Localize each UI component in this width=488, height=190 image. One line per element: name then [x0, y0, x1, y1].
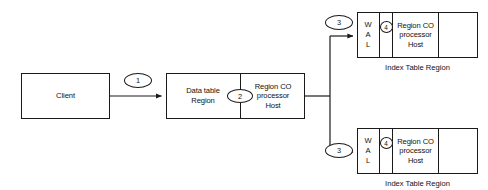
index-region-top-divider-1: [379, 12, 380, 58]
edge-badge-4-top: 4: [380, 21, 393, 33]
wal-letter-w: W: [364, 20, 371, 30]
index-region-bottom-processor-cell: Region CO processor Host: [393, 128, 438, 174]
diagram-canvas: Client 1 Data table Region Region CO pro…: [0, 0, 488, 190]
wal-letter-a: A: [365, 146, 370, 156]
index-region-top-empty-cell: [439, 12, 478, 58]
wal-label-top: W A L: [357, 12, 379, 58]
client-label: Client: [21, 73, 110, 119]
index-region-bottom-empty-cell: [439, 128, 478, 174]
edge-badge-1: 1: [124, 73, 152, 88]
wal-label-bottom: W A L: [357, 128, 379, 174]
wal-letter-a: A: [365, 30, 370, 40]
wal-letter-w: W: [364, 136, 371, 146]
index-region-top-processor-cell: Region CO processor Host: [393, 12, 438, 58]
index-region-top-caption: Index Table Region: [357, 63, 478, 73]
edge-badge-3-top: 3: [325, 15, 353, 30]
wal-letter-l: L: [366, 156, 370, 166]
edge-badge-2: 2: [227, 89, 253, 103]
edge-badge-3-bottom: 3: [325, 143, 353, 158]
wal-letter-l: L: [366, 40, 370, 50]
index-region-bottom-caption: Index Table Region: [357, 179, 478, 189]
index-region-bottom-divider-1: [379, 128, 380, 174]
edge-badge-4-bottom: 4: [380, 137, 393, 149]
